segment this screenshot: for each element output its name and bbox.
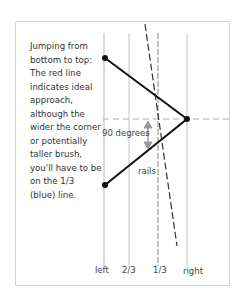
axis-label-right: right — [183, 266, 203, 276]
angle-label: 90 degrees — [102, 128, 150, 138]
point-top-left — [102, 55, 108, 61]
approach-diagram — [0, 0, 239, 297]
point-bottom-left — [102, 182, 108, 188]
rails-label: rails — [138, 166, 156, 176]
axis-label-left: left — [95, 265, 109, 275]
point-right — [184, 116, 190, 122]
axis-label-2-3: 2/3 — [122, 265, 136, 275]
axis-label-1-3: 1/3 — [153, 265, 167, 275]
